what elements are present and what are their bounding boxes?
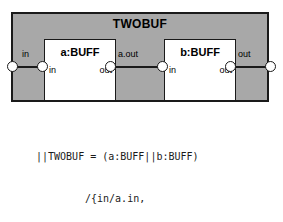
component-a-in-port-label: in	[49, 66, 56, 75]
port-circle-b-in	[157, 61, 168, 72]
inner-component-b-title: b:BUFF	[165, 46, 235, 58]
wire-label-external-out: out	[238, 50, 251, 59]
port-circle-external-in	[7, 61, 18, 72]
component-diagram: TWOBUF a:BUFF in out b:BUFF in out in a.…	[0, 0, 283, 118]
wire-label-external-in: in	[22, 50, 29, 59]
port-circle-a-in	[37, 61, 48, 72]
equation-line-1: ||TWOBUF = (a:BUFF||b:BUFF)	[0, 150, 283, 164]
wire-label-a-out: a.out	[118, 50, 138, 59]
equation-line-2: /{in/a.in,	[0, 192, 283, 206]
outer-component-twobuf: TWOBUF a:BUFF in out b:BUFF in out	[11, 12, 269, 102]
inner-component-a: a:BUFF in out	[44, 39, 116, 101]
page-root: TWOBUF a:BUFF in out b:BUFF in out in a.…	[0, 0, 283, 222]
inner-component-b: b:BUFF in out	[164, 39, 236, 101]
port-circle-a-out	[105, 61, 116, 72]
inner-component-a-title: a:BUFF	[45, 46, 115, 58]
outer-component-title: TWOBUF	[13, 17, 267, 31]
equation-block: ||TWOBUF = (a:BUFF||b:BUFF) /{in/a.in, a…	[0, 122, 283, 222]
component-b-in-port-label: in	[169, 66, 176, 75]
port-circle-b-out	[225, 61, 236, 72]
port-circle-external-out	[265, 61, 276, 72]
